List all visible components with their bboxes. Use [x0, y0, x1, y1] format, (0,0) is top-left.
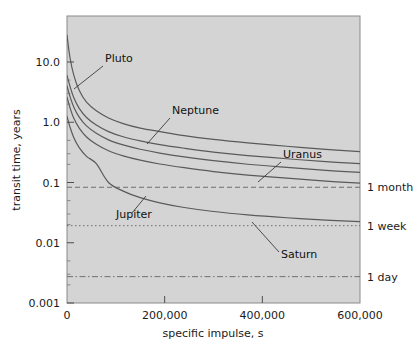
series-label-neptune: Neptune	[172, 104, 219, 117]
y-tick-label: 10.0	[36, 56, 61, 69]
y-tick-label: 0.001	[29, 297, 61, 310]
chart-canvas: 10.01.00.10.010.001 0200,000400,000600,0…	[0, 0, 415, 350]
reference-label-1-month: 1 month	[367, 181, 413, 194]
y-tick-label: 1.0	[43, 116, 61, 129]
y-tick-label: 0.1	[43, 177, 61, 190]
x-axis-title: specific impulse, s	[162, 327, 263, 340]
x-tick-label: 0	[64, 309, 71, 322]
series-label-uranus: Uranus	[283, 148, 322, 161]
reference-label-1-day: 1 day	[367, 271, 398, 284]
series-label-pluto: Pluto	[105, 52, 133, 65]
x-tick-label: 400,000	[240, 309, 286, 322]
series-label-jupiter: Jupiter	[115, 208, 152, 221]
x-tick-label: 200,000	[142, 309, 188, 322]
y-axis-title: transit time, years	[10, 109, 23, 211]
series-label-saturn: Saturn	[281, 248, 317, 261]
transit-time-chart: 10.01.00.10.010.001 0200,000400,000600,0…	[0, 0, 415, 350]
x-tick-label: 600,000	[337, 309, 383, 322]
y-tick-label: 0.01	[36, 237, 61, 250]
reference-label-1-week: 1 week	[367, 220, 407, 233]
